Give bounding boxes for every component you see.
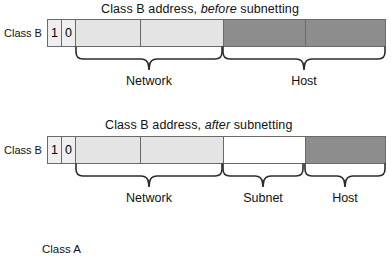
address-bar-before: 1 0 bbox=[47, 19, 386, 47]
octet-divider-network-before bbox=[140, 20, 141, 46]
diagram-before-title-prefix: Class B address, bbox=[101, 2, 201, 16]
diagram-before-row-label: Class B bbox=[4, 27, 42, 39]
bit-cell-0-before: 0 bbox=[62, 20, 76, 46]
figure-canvas: Class B address, before subnetting Class… bbox=[0, 0, 391, 265]
field-segment-network-after bbox=[76, 137, 223, 163]
field-label-network-after: Network bbox=[99, 191, 199, 205]
brace-host-after bbox=[304, 164, 387, 188]
brace-host-before bbox=[222, 47, 387, 71]
diagram-after-title-emphasis: after bbox=[205, 118, 231, 132]
diagram-before-title-suffix: subnetting bbox=[237, 2, 299, 16]
field-segment-host-after bbox=[305, 137, 385, 163]
brace-subnet-after bbox=[222, 164, 305, 188]
bit-value: 0 bbox=[65, 144, 72, 157]
brace-network-after bbox=[75, 164, 223, 188]
diagram-before-title-emphasis: before bbox=[201, 2, 237, 16]
diagram-after-title: Class B address, after subnetting bbox=[105, 118, 292, 132]
bit-value: 1 bbox=[51, 27, 58, 40]
octet-divider-network-after bbox=[140, 137, 141, 163]
bit-value: 0 bbox=[65, 27, 72, 40]
bit-cell-1-after: 1 bbox=[48, 137, 62, 163]
address-bar-after: 1 0 bbox=[47, 136, 386, 164]
field-boundary-network-subnet-after bbox=[223, 137, 224, 163]
field-boundary-network-host-before bbox=[223, 20, 224, 46]
bit-cell-1-before: 1 bbox=[48, 20, 62, 46]
footer-class-a-label: Class A bbox=[42, 243, 81, 256]
field-label-host-after: Host bbox=[295, 191, 391, 205]
field-segment-network-before bbox=[76, 20, 223, 46]
brace-network-before bbox=[75, 47, 223, 71]
bit-value: 1 bbox=[51, 144, 58, 157]
diagram-after-title-suffix: subnetting bbox=[230, 118, 292, 132]
field-boundary-subnet-host-after bbox=[305, 137, 306, 163]
bit-cell-0-after: 0 bbox=[62, 137, 76, 163]
field-label-host-before: Host bbox=[254, 74, 354, 88]
diagram-after-row-label: Class B bbox=[4, 144, 42, 156]
field-segment-host-before bbox=[223, 20, 385, 46]
field-label-network-before: Network bbox=[99, 74, 199, 88]
diagram-before-title: Class B address, before subnetting bbox=[101, 2, 299, 16]
octet-divider-host-before bbox=[305, 20, 306, 46]
field-segment-subnet-after bbox=[223, 137, 305, 163]
diagram-after-title-prefix: Class B address, bbox=[105, 118, 205, 132]
